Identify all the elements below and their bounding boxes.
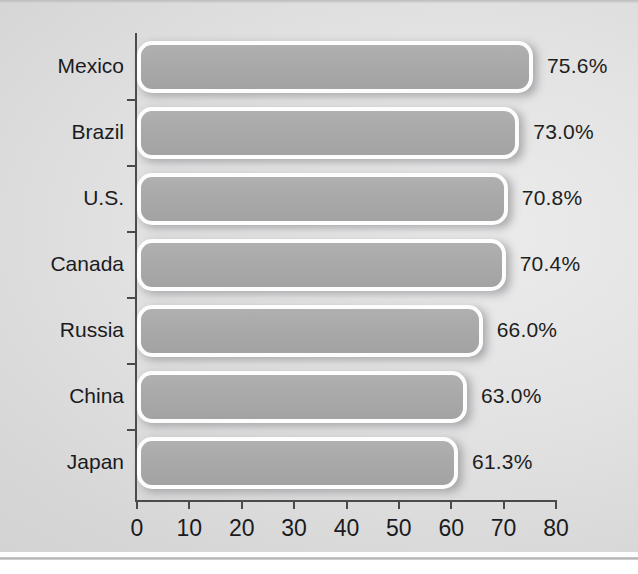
bar[interactable] — [137, 239, 506, 291]
bar[interactable] — [137, 371, 467, 423]
x-axis-tick-label: 20 — [229, 515, 255, 542]
bar-row: U.S.70.8% — [137, 166, 556, 232]
y-axis-tick — [127, 363, 137, 365]
x-axis-tick — [136, 500, 138, 509]
bar-value-label: 70.8% — [522, 186, 583, 210]
x-axis-tick-label: 60 — [438, 515, 464, 542]
x-axis-tick — [241, 500, 243, 509]
category-label-china: China — [0, 364, 124, 408]
y-axis-tick — [127, 297, 137, 299]
chart-page: Mexico75.6%Brazil73.0%U.S.70.8%Canada70.… — [0, 0, 638, 574]
x-axis-tick-label: 40 — [334, 515, 360, 542]
x-axis-tick — [293, 500, 295, 509]
bar-row: Japan61.3% — [137, 430, 556, 496]
bar[interactable] — [137, 173, 508, 225]
category-label-russia: Russia — [0, 298, 124, 342]
x-axis-tick-label: 30 — [281, 515, 307, 542]
category-label-text: Canada — [50, 252, 124, 276]
bar-value-label: 73.0% — [533, 120, 594, 144]
page-divider — [0, 557, 638, 560]
category-label-text: Russia — [60, 318, 124, 342]
x-axis-tick — [555, 500, 557, 509]
x-axis-tick — [346, 500, 348, 509]
category-label-brazil: Brazil — [0, 100, 124, 144]
bar-value-label: 75.6% — [547, 54, 608, 78]
x-axis-tick — [188, 500, 190, 509]
category-label-text: China — [69, 384, 124, 408]
category-label-u-s: U.S. — [0, 166, 124, 210]
bar-value-label: 70.4% — [520, 252, 581, 276]
category-label-canada: Canada — [0, 232, 124, 276]
y-axis-tick — [127, 231, 137, 233]
bar[interactable] — [137, 107, 519, 159]
bar[interactable] — [137, 437, 458, 489]
category-label-text: Mexico — [57, 54, 124, 78]
category-label-text: Japan — [67, 450, 124, 474]
x-axis-tick — [503, 500, 505, 509]
x-axis-tick-label: 0 — [131, 515, 144, 542]
category-label-japan: Japan — [0, 430, 124, 474]
category-label-text: Brazil — [71, 120, 124, 144]
bar[interactable] — [137, 41, 533, 93]
bar-row: Russia66.0% — [137, 298, 556, 364]
y-axis-tick — [127, 99, 137, 101]
category-label-mexico: Mexico — [0, 34, 124, 78]
bar-value-label: 63.0% — [481, 384, 542, 408]
plot-area: Mexico75.6%Brazil73.0%U.S.70.8%Canada70.… — [137, 33, 556, 500]
x-axis-tick — [450, 500, 452, 509]
x-axis-tick-label: 80 — [543, 515, 569, 542]
category-label-text: U.S. — [83, 186, 124, 210]
y-axis-tick — [127, 165, 137, 167]
bar-row: Brazil73.0% — [137, 100, 556, 166]
bar-value-label: 61.3% — [472, 450, 533, 474]
bar-row: China63.0% — [137, 364, 556, 430]
x-axis-tick-label: 70 — [491, 515, 517, 542]
y-axis-tick — [127, 429, 137, 431]
page-top-edge — [0, 0, 638, 3]
bar-row: Mexico75.6% — [137, 34, 556, 100]
bar[interactable] — [137, 305, 483, 357]
x-axis-tick-label: 50 — [386, 515, 412, 542]
x-axis-tick-label: 10 — [177, 515, 203, 542]
bar-row: Canada70.4% — [137, 232, 556, 298]
x-axis-tick — [398, 500, 400, 509]
bar-value-label: 66.0% — [497, 318, 558, 342]
